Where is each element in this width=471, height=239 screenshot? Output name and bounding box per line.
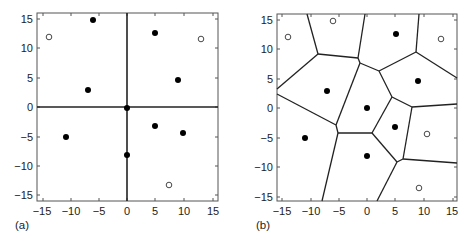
y-tick-label: 10 [261, 43, 273, 55]
figure: −15 −10 −5 0 5 10 15 15 10 5 0 −5 −10 −1… [0, 0, 471, 239]
panel-a-label: (a) [15, 219, 29, 231]
filled-point [415, 78, 421, 84]
y-tick-label: −5 [20, 131, 33, 143]
filled-point [85, 87, 91, 93]
panel-a-y-tick-labels: 15 10 5 0 −5 −10 −15 [14, 13, 33, 201]
y-tick-label: −15 [254, 191, 273, 203]
y-tick-label: 15 [21, 13, 33, 25]
filled-point [364, 105, 370, 111]
x-tick-label: −5 [93, 205, 106, 217]
panel-b: −15 −10 −5 0 5 10 15 15 10 5 0 −5 −10 −1… [254, 14, 458, 231]
panel-a-open-points [46, 34, 204, 188]
y-tick-label: −10 [14, 160, 33, 172]
open-point [166, 182, 172, 188]
filled-point [175, 77, 181, 83]
panel-b-open-points [285, 18, 444, 191]
x-tick-label: 0 [364, 205, 370, 217]
y-tick-label: −5 [260, 132, 273, 144]
x-tick-label: −10 [62, 205, 81, 217]
panel-a: −15 −10 −5 0 5 10 15 15 10 5 0 −5 −10 −1… [14, 13, 219, 231]
open-point [438, 36, 444, 42]
x-tick-label: 15 [207, 205, 219, 217]
filled-point [90, 17, 96, 23]
x-tick-label: −15 [273, 205, 292, 217]
panel-b-filled-points [302, 31, 421, 159]
x-tick-label: −10 [302, 205, 321, 217]
filled-point [124, 152, 130, 158]
filled-point [324, 88, 330, 94]
filled-point [364, 153, 370, 159]
y-tick-label: −15 [14, 189, 33, 201]
panel-a-filled-points [63, 17, 186, 158]
x-tick-label: 0 [124, 205, 130, 217]
filled-point [152, 123, 158, 129]
filled-point [392, 124, 398, 130]
open-point [198, 36, 204, 42]
x-tick-label: −15 [33, 205, 52, 217]
y-tick-label: 5 [27, 72, 33, 84]
y-tick-label: 10 [21, 42, 33, 54]
open-point [424, 131, 430, 137]
x-tick-label: 15 [446, 205, 458, 217]
open-point [416, 185, 422, 191]
y-tick-label: 0 [27, 101, 33, 113]
filled-point [393, 31, 399, 37]
y-tick-label: 0 [267, 102, 273, 114]
filled-point [63, 134, 69, 140]
y-tick-label: 15 [261, 14, 273, 26]
filled-point [124, 105, 130, 111]
panel-b-x-tick-labels: −15 −10 −5 0 5 10 15 [273, 205, 458, 217]
y-tick-label: −10 [254, 161, 273, 173]
filled-point [152, 30, 158, 36]
panel-b-y-tick-labels: 15 10 5 0 −5 −10 −15 [254, 14, 273, 203]
x-tick-label: 5 [152, 205, 158, 217]
y-tick-label: 5 [267, 73, 273, 85]
filled-point [302, 135, 308, 141]
x-tick-label: 5 [392, 205, 398, 217]
x-tick-label: 10 [418, 205, 430, 217]
open-point [46, 34, 52, 40]
open-point [285, 34, 291, 40]
open-point [330, 18, 336, 24]
panel-a-x-tick-labels: −15 −10 −5 0 5 10 15 [33, 205, 219, 217]
panel-b-label: (b) [256, 219, 270, 231]
x-tick-label: −5 [333, 205, 346, 217]
x-tick-label: 10 [178, 205, 190, 217]
filled-point [180, 130, 186, 136]
